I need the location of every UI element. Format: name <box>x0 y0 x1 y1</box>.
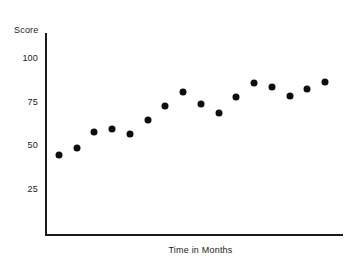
data-point <box>215 110 222 117</box>
scatter-chart: Score 100755025 Time in Months <box>0 0 356 265</box>
x-axis-title: Time in Months <box>0 245 356 255</box>
data-point <box>162 103 169 110</box>
data-point <box>91 129 98 136</box>
data-point <box>56 152 63 159</box>
data-point <box>304 85 311 92</box>
plot-area <box>0 0 356 265</box>
data-point <box>233 94 240 101</box>
data-point <box>322 78 329 85</box>
data-point <box>109 125 116 132</box>
data-point <box>286 92 293 99</box>
data-point <box>197 101 204 108</box>
data-point <box>180 89 187 96</box>
data-point <box>126 131 133 138</box>
data-point <box>251 80 258 87</box>
data-point <box>73 145 80 152</box>
data-point <box>268 83 275 90</box>
data-point <box>144 117 151 124</box>
